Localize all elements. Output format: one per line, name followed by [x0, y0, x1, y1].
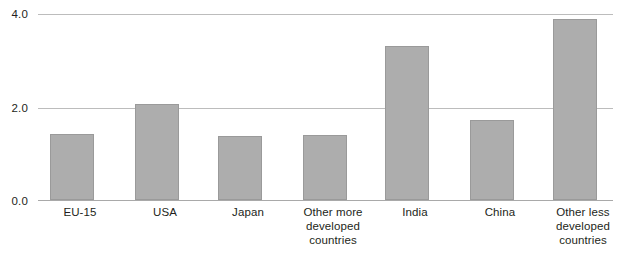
x-tick-label-line-1: USA: [153, 206, 177, 218]
x-tick-label-line-2: developed: [525, 219, 622, 233]
y-tick-label-4: 4.0: [11, 8, 28, 20]
x-tick-label-line-3: countries: [275, 233, 391, 247]
bar-usa: [135, 104, 179, 200]
bar-eu-15: [50, 134, 94, 200]
x-axis: EU-15 USA Japan Other more developed cou…: [38, 205, 613, 263]
x-tick-label-other-less-developed-countries: Other less developed countries: [525, 205, 622, 247]
x-tick-label-line-1: Japan: [232, 206, 264, 218]
caption-strip: [0, 260, 622, 267]
bar-china: [470, 120, 514, 200]
x-tick-label-line-2: developed: [275, 219, 391, 233]
bars-layer: [38, 14, 613, 201]
x-tick-label-line-1: China: [485, 206, 516, 218]
x-tick-label-line-1: India: [402, 206, 427, 218]
plot-area: [38, 14, 613, 201]
x-tick-label-line-1: Other less: [556, 206, 609, 218]
bar-india: [385, 46, 429, 200]
y-tick-label-2: 2.0: [11, 102, 28, 114]
bar-other-less-developed-countries: [553, 19, 597, 200]
x-tick-label-line-3: countries: [525, 233, 622, 247]
bar-other-more-developed-countries: [303, 135, 347, 200]
x-tick-label-line-1: EU-15: [63, 206, 96, 218]
bar-chart-figure: 4.0 2.0 0.0 EU-15 USA Japan Other mor: [0, 0, 622, 267]
x-tick-label-line-1: Other more: [303, 206, 362, 218]
bar-japan: [218, 136, 262, 200]
y-axis: 4.0 2.0 0.0: [0, 0, 38, 215]
